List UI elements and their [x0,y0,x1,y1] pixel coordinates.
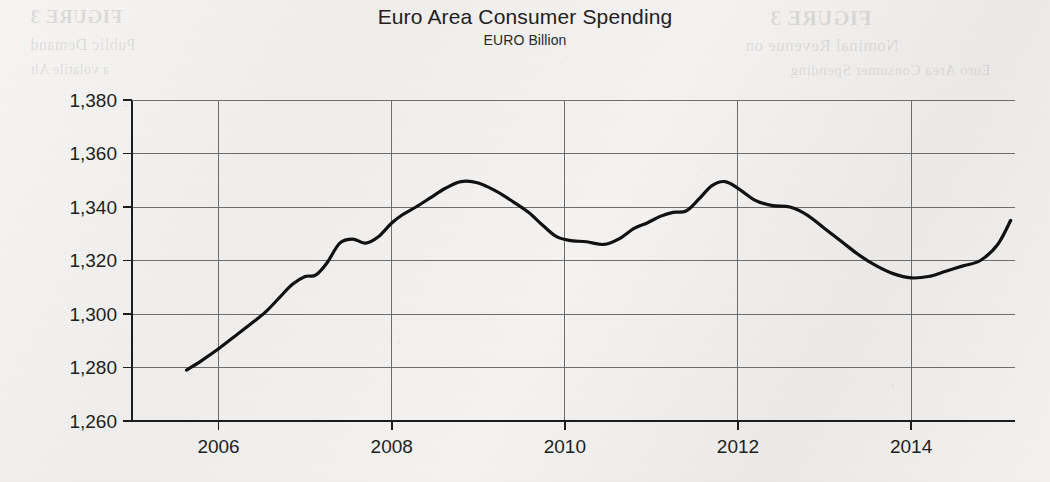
chart-header: Euro Area Consumer Spending EURO Billion [0,4,1050,50]
chart-subtitle: EURO Billion [0,31,1050,50]
y-tick-label: 1,360 [69,143,117,164]
x-tick-label: 2008 [371,436,413,457]
y-tick-label: 1,300 [69,304,117,325]
x-axis-ticks [219,421,912,430]
x-tick-label: 2010 [544,436,586,457]
y-tick-label: 1,260 [69,411,117,432]
y-axis-tick-labels: 1,2601,2801,3001,3201,3401,3601,380 [69,90,117,432]
x-tick-label: 2006 [197,436,239,457]
y-tick-label: 1,340 [69,197,117,218]
x-axis-tick-labels: 20062008201020122014 [197,436,932,457]
y-tick-label: 1,280 [69,357,117,378]
line-chart-svg: 1,2601,2801,3001,3201,3401,3601,380 2006… [0,0,1050,482]
x-tick-label: 2012 [717,436,759,457]
horizontal-gridlines [132,100,1015,368]
y-tick-label: 1,380 [69,90,117,111]
chart-title: Euro Area Consumer Spending [0,4,1050,30]
plot-container: 1,2601,2801,3001,3201,3401,3601,380 2006… [0,0,1050,482]
chart-page: FIGURE 3 Public Demand a volatile Alt FI… [0,0,1050,482]
y-axis-ticks [123,100,132,421]
y-tick-label: 1,320 [69,250,117,271]
x-tick-label: 2014 [890,436,933,457]
data-series-layer [187,181,1011,370]
